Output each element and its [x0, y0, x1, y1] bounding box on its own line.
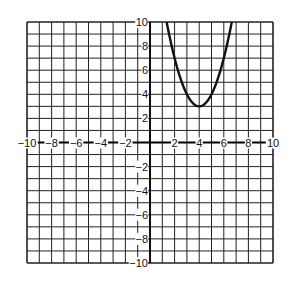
x-tick-label: −6 [70, 137, 83, 149]
x-tick-label: −4 [95, 137, 108, 149]
y-tick-label: 4 [142, 88, 148, 100]
y-tick-label: −6 [135, 209, 148, 221]
x-tick-label: 4 [196, 137, 202, 149]
y-tick-label: 8 [142, 40, 148, 52]
x-tick-label: −8 [45, 137, 58, 149]
y-tick-label: 2 [142, 112, 148, 124]
x-tick-label: −2 [119, 137, 132, 149]
y-tick-label: −10 [129, 257, 148, 269]
y-tick-label: −8 [135, 233, 148, 245]
y-tick-label: −2 [135, 161, 148, 173]
coordinate-plane: −10−8−6−4−2246810 108642−2−4−6−8−10 [0, 0, 290, 281]
x-tick-label: 10 [267, 137, 279, 149]
x-tick-label: 2 [172, 137, 178, 149]
y-tick-label: −4 [135, 185, 148, 197]
x-tick-label: 8 [245, 137, 251, 149]
y-tick-label: 6 [142, 64, 148, 76]
x-tick-label: −10 [18, 137, 37, 149]
y-tick-label: 10 [136, 16, 148, 28]
x-tick-label: 6 [221, 137, 227, 149]
